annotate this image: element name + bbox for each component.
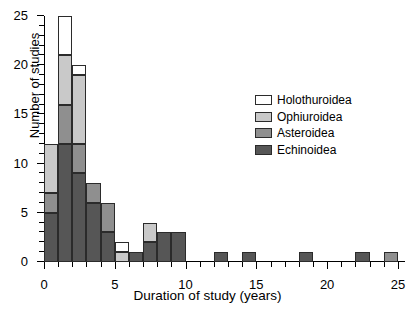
y-tick-label: 20 xyxy=(14,57,28,72)
bar-segment-holothuroidea xyxy=(72,65,86,75)
y-tick-minor xyxy=(39,231,44,232)
x-tick-minor xyxy=(242,262,243,267)
y-tick-minor xyxy=(39,143,44,144)
bar-segment-echinoidea xyxy=(171,232,185,262)
y-tick-label: 10 xyxy=(14,155,28,170)
x-tick-major: 25 xyxy=(398,262,399,269)
y-tick-minor xyxy=(39,25,44,26)
y-tick-major: 20 xyxy=(37,64,44,65)
y-tick-minor xyxy=(39,251,44,252)
x-tick-minor xyxy=(271,262,272,267)
x-tick-minor xyxy=(299,262,300,267)
y-tick-label: 0 xyxy=(21,254,28,269)
legend-swatch-holothuroidea xyxy=(255,95,272,105)
y-tick-minor xyxy=(39,94,44,95)
legend-label: Echinoidea xyxy=(277,143,336,157)
y-tick-minor xyxy=(39,153,44,154)
bar-segment-asteroidea xyxy=(101,203,115,233)
bar-segment-echinoidea xyxy=(72,173,86,262)
x-tick-minor xyxy=(157,262,158,267)
histogram-bar xyxy=(384,252,398,262)
bar-segment-echinoidea xyxy=(129,252,143,262)
x-tick-minor xyxy=(58,262,59,267)
legend-item: Holothuroidea xyxy=(255,92,352,109)
x-axis-title: Duration of study (years) xyxy=(0,288,415,303)
legend-swatch-echinoidea xyxy=(255,145,272,155)
y-tick-major: 15 xyxy=(37,113,44,114)
legend-item: Asteroidea xyxy=(255,125,352,142)
bar-segment-echinoidea xyxy=(214,252,228,262)
x-tick-major: 0 xyxy=(44,262,45,269)
bar-segment-echinoidea xyxy=(58,144,72,262)
x-tick-minor xyxy=(355,262,356,267)
x-tick-major: 20 xyxy=(327,262,328,269)
y-tick-minor xyxy=(39,45,44,46)
histogram-bar xyxy=(157,232,171,262)
y-tick-minor xyxy=(39,54,44,55)
bar-segment-holothuroidea xyxy=(115,242,129,252)
x-tick-minor xyxy=(214,262,215,267)
y-tick-major: 25 xyxy=(37,15,44,16)
y-tick-minor xyxy=(39,35,44,36)
x-tick-minor xyxy=(86,262,87,267)
x-tick-minor xyxy=(313,262,314,267)
bar-segment-asteroidea xyxy=(384,252,398,262)
histogram-bar xyxy=(86,183,100,262)
bar-segment-echinoidea xyxy=(101,232,115,262)
x-tick-major: 10 xyxy=(186,262,187,269)
bar-segment-echinoidea xyxy=(143,242,157,262)
histogram-bar xyxy=(214,252,228,262)
x-tick-minor xyxy=(200,262,201,267)
legend-label: Holothuroidea xyxy=(277,93,352,107)
y-axis-title: Number of studies xyxy=(27,6,42,166)
bar-segment-echinoidea xyxy=(44,213,58,262)
bar-segment-ophiuroidea xyxy=(143,223,157,243)
histogram-bar xyxy=(242,252,256,262)
x-tick-minor xyxy=(143,262,144,267)
y-tick-minor xyxy=(39,202,44,203)
bar-segment-echinoidea xyxy=(299,252,313,262)
bar-segment-echinoidea xyxy=(157,232,171,262)
y-tick-minor xyxy=(39,192,44,193)
y-tick-major: 10 xyxy=(37,163,44,164)
x-tick-major: 15 xyxy=(256,262,257,269)
y-tick-minor xyxy=(39,123,44,124)
x-tick-major: 5 xyxy=(115,262,116,269)
y-tick-minor xyxy=(39,133,44,134)
x-tick-minor xyxy=(129,262,130,267)
x-tick-minor xyxy=(341,262,342,267)
histogram-bar xyxy=(129,252,143,262)
y-tick-minor xyxy=(39,104,44,105)
y-tick-minor xyxy=(39,182,44,183)
y-tick-minor xyxy=(39,84,44,85)
bar-segment-ophiuroidea xyxy=(58,55,72,104)
y-tick-label: 25 xyxy=(14,8,28,23)
bar-segment-holothuroidea xyxy=(58,16,72,55)
x-tick-minor xyxy=(384,262,385,267)
legend-item: Ophiuroidea xyxy=(255,109,352,126)
x-tick-minor xyxy=(171,262,172,267)
bar-segment-echinoidea xyxy=(86,203,100,262)
histogram-figure: Number of studies 0510152025 0510152025 … xyxy=(0,0,415,313)
y-tick-major: 0 xyxy=(37,261,44,262)
legend-swatch-asteroidea xyxy=(255,128,272,138)
y-tick-minor xyxy=(39,222,44,223)
bar-segment-ophiuroidea xyxy=(44,144,58,193)
histogram-bar xyxy=(171,232,185,262)
bar-segment-ophiuroidea xyxy=(72,75,86,144)
histogram-bar xyxy=(143,223,157,262)
histogram-bar xyxy=(58,16,72,262)
bar-segment-ophiuroidea xyxy=(115,252,129,262)
x-tick-minor xyxy=(72,262,73,267)
legend-label: Asteroidea xyxy=(277,126,334,140)
legend-swatch-ophiuroidea xyxy=(255,112,272,122)
bar-segment-asteroidea xyxy=(44,193,58,213)
y-tick-minor xyxy=(39,74,44,75)
legend: HolothuroideaOphiuroideaAsteroideaEchino… xyxy=(255,92,352,158)
y-tick-major: 5 xyxy=(37,212,44,213)
x-tick-minor xyxy=(285,262,286,267)
y-tick-label: 15 xyxy=(14,106,28,121)
bar-segment-echinoidea xyxy=(355,252,369,262)
histogram-bar xyxy=(355,252,369,262)
y-tick-minor xyxy=(39,172,44,173)
